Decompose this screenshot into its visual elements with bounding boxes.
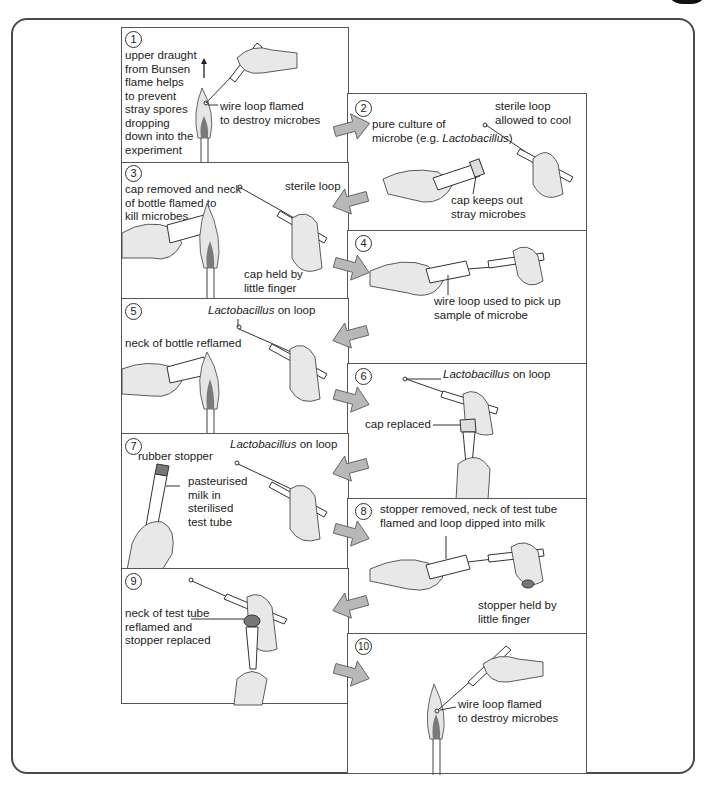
step-10-panel: 10 wire loop flamedto destroy microbes <box>347 633 587 774</box>
final-flame-illustration <box>348 634 588 775</box>
stopper-replace-illustration <box>122 569 350 705</box>
reflame-bottle-illustration <box>122 299 350 435</box>
arrow-5-to-6 <box>332 384 372 414</box>
dip-loop-illustration <box>348 499 588 635</box>
pickup-sample-illustration <box>348 231 588 365</box>
step-1-panel: 1 upper draughtfrom Bunsenflame helpsto … <box>121 27 349 163</box>
step-8-panel: 8 stopper removed, neck of test tubeflam… <box>347 498 587 634</box>
culture-bottle-illustration <box>348 94 588 232</box>
step-2-panel: 2 pure culture of microbe (e.g. Lactobac… <box>347 93 587 231</box>
arrow-3-to-4 <box>332 252 372 282</box>
arrow-1-to-2 <box>332 112 372 142</box>
step-4-panel: 4 wire loop used to pick upsample of mic… <box>347 230 587 364</box>
step-7-panel: 7 Lactobacillus on loop rubber stopper p… <box>121 433 349 569</box>
arrow-2-to-3 <box>330 186 370 216</box>
bunsen-flame-illustration <box>122 28 350 164</box>
arrow-7-to-8 <box>332 518 372 548</box>
step-6-panel: 6 Lactobacillus on loop cap replaced <box>347 363 587 499</box>
milk-tube-illustration <box>122 434 350 570</box>
flaming-bottle-illustration <box>122 163 350 300</box>
arrow-8-to-9 <box>330 590 370 620</box>
page-corner-tab <box>665 0 704 4</box>
step-9-panel: 9 neck of test tubereflamed andstopper r… <box>121 568 349 704</box>
step-5-panel: 5 Lactobacillus on loop neck of bottle r… <box>121 298 349 434</box>
cap-replace-illustration <box>348 364 588 500</box>
arrow-6-to-7 <box>330 453 370 483</box>
arrow-4-to-5 <box>330 320 370 350</box>
step-3-panel: 3 cap removed and neckof bottle flamed t… <box>121 162 349 299</box>
arrow-9-to-10 <box>332 658 372 688</box>
